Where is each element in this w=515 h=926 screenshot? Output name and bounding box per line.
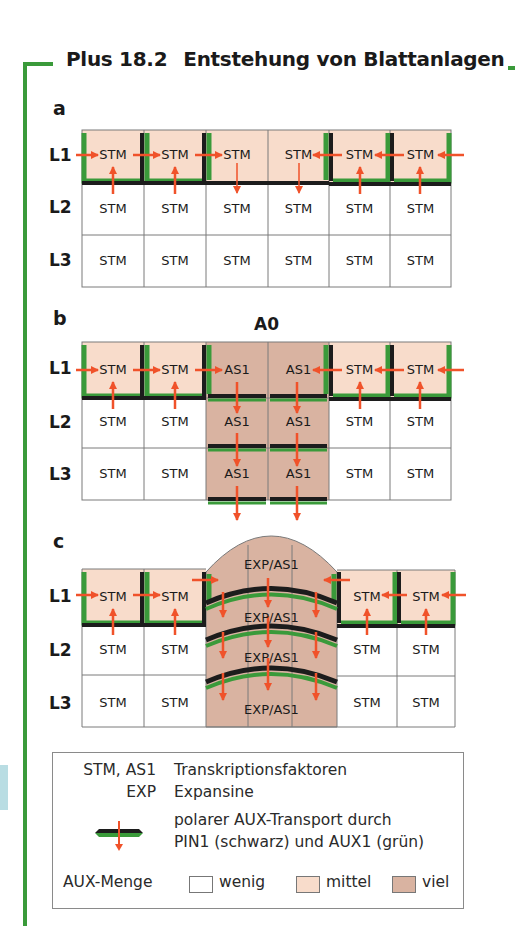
legend-desc-tf: Transkriptionsfaktoren — [174, 761, 347, 779]
swatch-mittel — [296, 876, 320, 893]
cell-a-l2-3: STM — [206, 201, 268, 216]
primordium-label-4: EXP/AS1 — [206, 702, 337, 717]
cell-b-l3-1: STM — [82, 466, 144, 481]
swatch-wenig — [189, 876, 213, 893]
legend-desc-exp: Expansine — [174, 783, 254, 801]
legend-desc-transport-2: PIN1 (schwarz) und AUX1 (grün) — [174, 833, 424, 851]
cell-a-l3-1: STM — [82, 253, 144, 268]
cell-a-l3-4: STM — [268, 253, 329, 268]
cell-c-l3-1: STM — [82, 695, 144, 710]
cell-b-l3-6: STM — [390, 466, 451, 481]
swatch-viel — [392, 876, 416, 893]
cell-a-l2-4: STM — [268, 201, 329, 216]
legend-term-tf: STM, AS1 — [53, 761, 156, 779]
cell-a-l2-5: STM — [329, 201, 390, 216]
cell-b-l3-4: AS1 — [268, 466, 329, 481]
cell-c-l1-1: STM — [82, 589, 144, 604]
cell-a-l1-2: STM — [144, 147, 206, 162]
primordium-label-1: EXP/AS1 — [206, 557, 337, 572]
legend-level-wenig: wenig — [219, 873, 265, 891]
legend-aux-amount-label: AUX-Menge — [63, 873, 153, 891]
cell-b-l2-4: AS1 — [268, 414, 329, 429]
primordium-label-2: EXP/AS1 — [206, 610, 337, 625]
cell-b-l2-1: STM — [82, 414, 144, 429]
cell-a-l3-3: STM — [206, 253, 268, 268]
cell-a-l3-5: STM — [329, 253, 390, 268]
cell-a-l1-6: STM — [390, 147, 451, 162]
cell-b-l3-3: AS1 — [206, 466, 268, 481]
cell-a-l3-6: STM — [390, 253, 451, 268]
cell-a-l1-4: STM — [268, 147, 329, 162]
cell-b-l2-6: STM — [390, 414, 451, 429]
cell-b-l2-3: AS1 — [206, 414, 268, 429]
cell-b-l1-4: AS1 — [268, 362, 329, 377]
cell-c-l3-2: STM — [144, 695, 206, 710]
cell-b-l1-3: AS1 — [206, 362, 268, 377]
cell-a-l1-1: STM — [82, 147, 144, 162]
legend-desc-transport-1: polarer AUX-Transport durch — [174, 811, 392, 829]
cell-c-l2-1: STM — [82, 642, 144, 657]
cell-a-l2-6: STM — [390, 201, 451, 216]
cell-c-l2-4: STM — [397, 642, 455, 657]
legend: STM, AS1 Transkriptionsfaktoren EXP Expa… — [52, 752, 464, 909]
cell-a-l1-3: STM — [206, 147, 268, 162]
cell-c-l3-3: STM — [337, 695, 397, 710]
legend-level-viel: viel — [422, 873, 449, 891]
cell-c-l3-4: STM — [397, 695, 455, 710]
cell-c-l2-2: STM — [144, 642, 206, 657]
pin1-aux1-transport-icon — [93, 819, 145, 853]
cell-b-l3-5: STM — [329, 466, 390, 481]
cell-b-l1-1: STM — [82, 362, 144, 377]
cell-c-l1-3: STM — [337, 589, 397, 604]
cell-c-l1-2: STM — [144, 589, 206, 604]
cell-b-l1-5: STM — [329, 362, 390, 377]
cell-b-l1-2: STM — [144, 362, 206, 377]
legend-level-mittel: mittel — [326, 873, 371, 891]
cell-a-l3-2: STM — [144, 253, 206, 268]
legend-term-exp: EXP — [53, 783, 156, 801]
cell-a-l2-2: STM — [144, 201, 206, 216]
cell-a-l2-1: STM — [82, 201, 144, 216]
cell-b-l1-6: STM — [390, 362, 451, 377]
cell-b-l2-5: STM — [329, 414, 390, 429]
cell-c-l1-4: STM — [397, 589, 455, 604]
cell-a-l1-5: STM — [329, 147, 390, 162]
cell-c-l2-3: STM — [337, 642, 397, 657]
primordium-label-3: EXP/AS1 — [206, 650, 337, 665]
cell-b-l2-2: STM — [144, 414, 206, 429]
cell-b-l3-2: STM — [144, 466, 206, 481]
